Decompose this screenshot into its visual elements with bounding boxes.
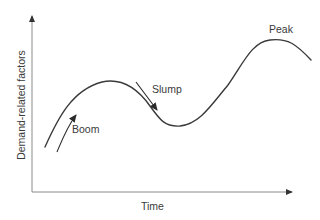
peak-annotation: Peak (269, 24, 293, 35)
x-axis-label: Time (141, 201, 164, 212)
y-axis-label: Demand-related factors (16, 50, 27, 160)
boom-annotation: Boom (72, 124, 99, 135)
business-cycle-diagram: Demand-related factors Time Boom Slump P… (0, 0, 320, 220)
slump-annotation: Slump (152, 84, 182, 95)
